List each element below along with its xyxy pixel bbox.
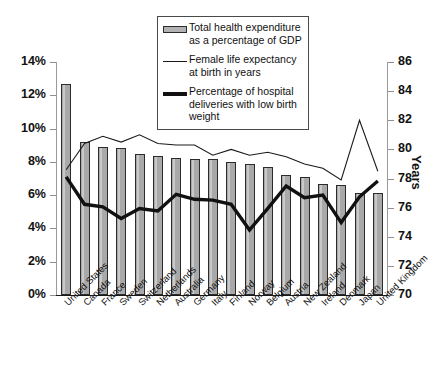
chart-container: 0%2%4%6%8%10%12%14% 707274767880828486 Y… <box>0 0 444 374</box>
x-axis-label-group: United StatesCanadaFranceSwedenSwitzerla… <box>0 0 444 374</box>
x-axis-tick-label: United Kingdom <box>374 252 430 308</box>
